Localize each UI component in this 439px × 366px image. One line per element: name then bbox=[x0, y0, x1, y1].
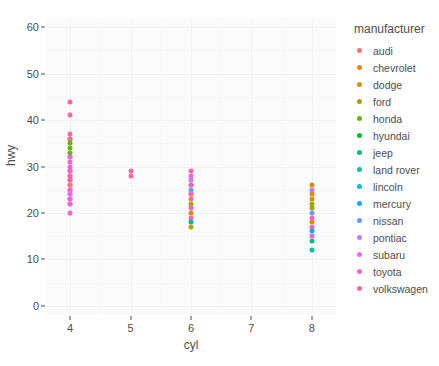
circle-icon bbox=[357, 252, 362, 257]
legend-key-swatch bbox=[352, 196, 367, 211]
legend-item-mercury[interactable]: mercury bbox=[352, 195, 439, 212]
circle-icon bbox=[357, 150, 362, 155]
legend-key-swatch bbox=[352, 128, 367, 143]
gridline-major-x bbox=[312, 18, 313, 315]
gridline-minor-x bbox=[100, 18, 101, 315]
circle-icon bbox=[357, 167, 362, 172]
legend-item-land-rover[interactable]: land rover bbox=[352, 161, 439, 178]
y-axis-title: hwy bbox=[4, 145, 18, 166]
legend-item-label: toyota bbox=[373, 266, 402, 278]
circle-icon bbox=[357, 184, 362, 189]
legend-key-swatch bbox=[352, 247, 367, 262]
y-tick-label: 40 bbox=[27, 114, 39, 126]
plot-panel-inner bbox=[46, 18, 336, 315]
y-tick-label: 30 bbox=[27, 161, 39, 173]
circle-icon bbox=[357, 286, 362, 291]
y-tick-mark bbox=[41, 305, 45, 306]
legend-key-swatch bbox=[352, 264, 367, 279]
legend: manufacturer audichevroletdodgefordhonda… bbox=[352, 22, 439, 297]
data-point bbox=[309, 248, 314, 253]
legend-item-jeep[interactable]: jeep bbox=[352, 144, 439, 161]
legend-item-label: nissan bbox=[373, 215, 403, 227]
y-tick-mark bbox=[41, 212, 45, 213]
legend-key-swatch bbox=[352, 43, 367, 58]
gridline-major-x bbox=[191, 18, 192, 315]
x-tick-mark bbox=[311, 316, 312, 320]
data-point bbox=[189, 224, 194, 229]
legend-title: manufacturer bbox=[354, 22, 439, 36]
legend-item-toyota[interactable]: toyota bbox=[352, 263, 439, 280]
gridline-major-x bbox=[131, 18, 132, 315]
legend-key-swatch bbox=[352, 179, 367, 194]
legend-item-pontiac[interactable]: pontiac bbox=[352, 229, 439, 246]
circle-icon bbox=[357, 65, 362, 70]
y-tick-mark bbox=[41, 259, 45, 260]
x-tick-label: 6 bbox=[188, 322, 194, 334]
data-point bbox=[68, 113, 73, 118]
x-tick-mark bbox=[251, 316, 252, 320]
legend-item-audi[interactable]: audi bbox=[352, 42, 439, 59]
legend-item-dodge[interactable]: dodge bbox=[352, 76, 439, 93]
y-tick-label: 20 bbox=[27, 207, 39, 219]
legend-item-label: audi bbox=[373, 45, 393, 57]
gridline-major-x bbox=[251, 18, 252, 315]
circle-icon bbox=[357, 269, 362, 274]
y-tick-mark bbox=[41, 166, 45, 167]
legend-item-label: jeep bbox=[373, 147, 393, 159]
y-tick-mark bbox=[41, 73, 45, 74]
x-tick-mark bbox=[70, 316, 71, 320]
y-tick-label: 60 bbox=[27, 21, 39, 33]
legend-item-label: dodge bbox=[373, 79, 402, 91]
x-tick-mark bbox=[130, 316, 131, 320]
y-tick-mark bbox=[41, 27, 45, 28]
legend-item-chevrolet[interactable]: chevrolet bbox=[352, 59, 439, 76]
legend-item-volkswagen[interactable]: volkswagen bbox=[352, 280, 439, 297]
plot-panel bbox=[46, 18, 336, 315]
legend-item-label: subaru bbox=[373, 249, 405, 261]
x-tick-label: 7 bbox=[248, 322, 254, 334]
legend-item-lincoln[interactable]: lincoln bbox=[352, 178, 439, 195]
gridline-minor-x bbox=[282, 18, 283, 315]
x-tick-mark bbox=[191, 316, 192, 320]
circle-icon bbox=[357, 48, 362, 53]
legend-item-nissan[interactable]: nissan bbox=[352, 212, 439, 229]
legend-item-label: honda bbox=[373, 113, 402, 125]
y-tick-label: 50 bbox=[27, 68, 39, 80]
circle-icon bbox=[357, 218, 362, 223]
legend-item-label: ford bbox=[373, 96, 391, 108]
data-point bbox=[68, 210, 73, 215]
circle-icon bbox=[357, 99, 362, 104]
legend-items: audichevroletdodgefordhondahyundaijeepla… bbox=[352, 42, 439, 297]
circle-icon bbox=[357, 116, 362, 121]
circle-icon bbox=[357, 235, 362, 240]
circle-icon bbox=[357, 82, 362, 87]
legend-item-label: pontiac bbox=[373, 232, 407, 244]
legend-item-ford[interactable]: ford bbox=[352, 93, 439, 110]
data-point bbox=[128, 173, 133, 178]
circle-icon bbox=[357, 133, 362, 138]
legend-key-swatch bbox=[352, 230, 367, 245]
legend-item-honda[interactable]: honda bbox=[352, 110, 439, 127]
legend-item-label: land rover bbox=[373, 164, 420, 176]
legend-key-swatch bbox=[352, 60, 367, 75]
legend-item-label: hyundai bbox=[373, 130, 410, 142]
data-point bbox=[309, 238, 314, 243]
y-tick-label: 10 bbox=[27, 253, 39, 265]
legend-item-label: chevrolet bbox=[373, 62, 416, 74]
legend-key-swatch bbox=[352, 281, 367, 296]
legend-key-swatch bbox=[352, 145, 367, 160]
gridline-minor-x bbox=[161, 18, 162, 315]
legend-key-swatch bbox=[352, 162, 367, 177]
legend-item-label: mercury bbox=[373, 198, 411, 210]
legend-key-swatch bbox=[352, 77, 367, 92]
circle-icon bbox=[357, 201, 362, 206]
legend-item-label: lincoln bbox=[373, 181, 403, 193]
legend-item-subaru[interactable]: subaru bbox=[352, 246, 439, 263]
legend-key-swatch bbox=[352, 94, 367, 109]
x-tick-label: 4 bbox=[67, 322, 73, 334]
legend-item-hyundai[interactable]: hyundai bbox=[352, 127, 439, 144]
gridline-minor-x bbox=[221, 18, 222, 315]
x-tick-label: 8 bbox=[309, 322, 315, 334]
data-point bbox=[68, 99, 73, 104]
data-point bbox=[68, 201, 73, 206]
